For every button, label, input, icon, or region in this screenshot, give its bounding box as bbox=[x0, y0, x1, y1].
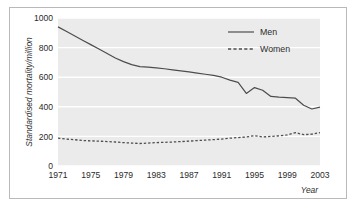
y-tick-label: 1000 bbox=[34, 13, 53, 23]
x-tick-label: 1987 bbox=[179, 170, 198, 180]
x-tick-label: 1979 bbox=[114, 170, 133, 180]
y-tick-label: 200 bbox=[39, 132, 54, 142]
x-tick-label: 1975 bbox=[81, 170, 100, 180]
plot-area-background bbox=[58, 18, 320, 166]
x-tick-label: 2003 bbox=[310, 170, 329, 180]
plot-background-group bbox=[58, 18, 320, 166]
x-tick-label: 1991 bbox=[212, 170, 231, 180]
y-tick-label: 600 bbox=[39, 72, 54, 82]
legend-label-women: Women bbox=[260, 44, 290, 54]
x-tick-label: 1995 bbox=[245, 170, 264, 180]
legend-label-men: Men bbox=[260, 27, 277, 37]
x-axis-tick-labels: 197119751979198319871991199519992003 bbox=[48, 170, 329, 180]
y-axis-tick-labels: 02004006008001000 bbox=[34, 13, 53, 171]
y-tick-label: 800 bbox=[39, 43, 54, 53]
y-tick-label: 400 bbox=[39, 102, 54, 112]
x-tick-label: 1983 bbox=[147, 170, 166, 180]
y-axis-title: Standardised mortality/million bbox=[24, 37, 34, 147]
figure-frame: 02004006008001000 1971197519791983198719… bbox=[9, 7, 347, 199]
x-axis-title: Year bbox=[301, 185, 319, 195]
mortality-line-chart: 02004006008001000 1971197519791983198719… bbox=[10, 8, 346, 198]
x-tick-label: 1971 bbox=[48, 170, 67, 180]
x-tick-label: 1999 bbox=[278, 170, 297, 180]
